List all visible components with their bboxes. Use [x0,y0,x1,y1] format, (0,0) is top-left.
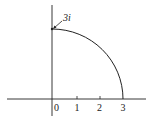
start-point [51,28,53,30]
diagram-canvas: 3i 0 1 2 3 [0,0,153,119]
quarter-arc [52,29,123,99]
x-tick-label-2: 2 [97,102,102,113]
arc-start-label: 3i [62,12,71,23]
x-tick-label-3: 3 [121,102,126,113]
x-tick-label-0: 0 [54,102,59,113]
x-tick-label-1: 1 [75,102,80,113]
